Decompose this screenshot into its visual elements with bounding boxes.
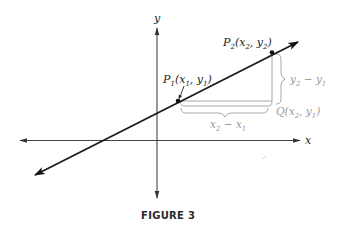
- stray-mark: [262, 156, 266, 159]
- p2-label: P2(x2, y2): [222, 36, 272, 51]
- run-label: x2 − x1: [210, 118, 246, 133]
- figure-caption: FIGURE 3: [141, 210, 195, 221]
- x-axis-label: x: [305, 134, 312, 147]
- p1-pointer: [180, 86, 184, 97]
- run-brace: [181, 108, 268, 117]
- y-axis-label: y: [153, 12, 161, 25]
- figure-3-diagram: y x P1(x1, y1) P2(x2, y2) Q(x2, y1) y2 −…: [0, 0, 339, 231]
- rise-label: y2 − y1: [289, 73, 326, 88]
- point-p1: [176, 99, 181, 104]
- secant-line: [35, 42, 298, 175]
- point-p2: [270, 50, 275, 55]
- p1-pointer-head: [179, 95, 182, 100]
- q-label: Q(x2, y1): [276, 105, 320, 120]
- p1-label: P1(x1, y1): [162, 73, 212, 88]
- rise-brace: [276, 54, 285, 104]
